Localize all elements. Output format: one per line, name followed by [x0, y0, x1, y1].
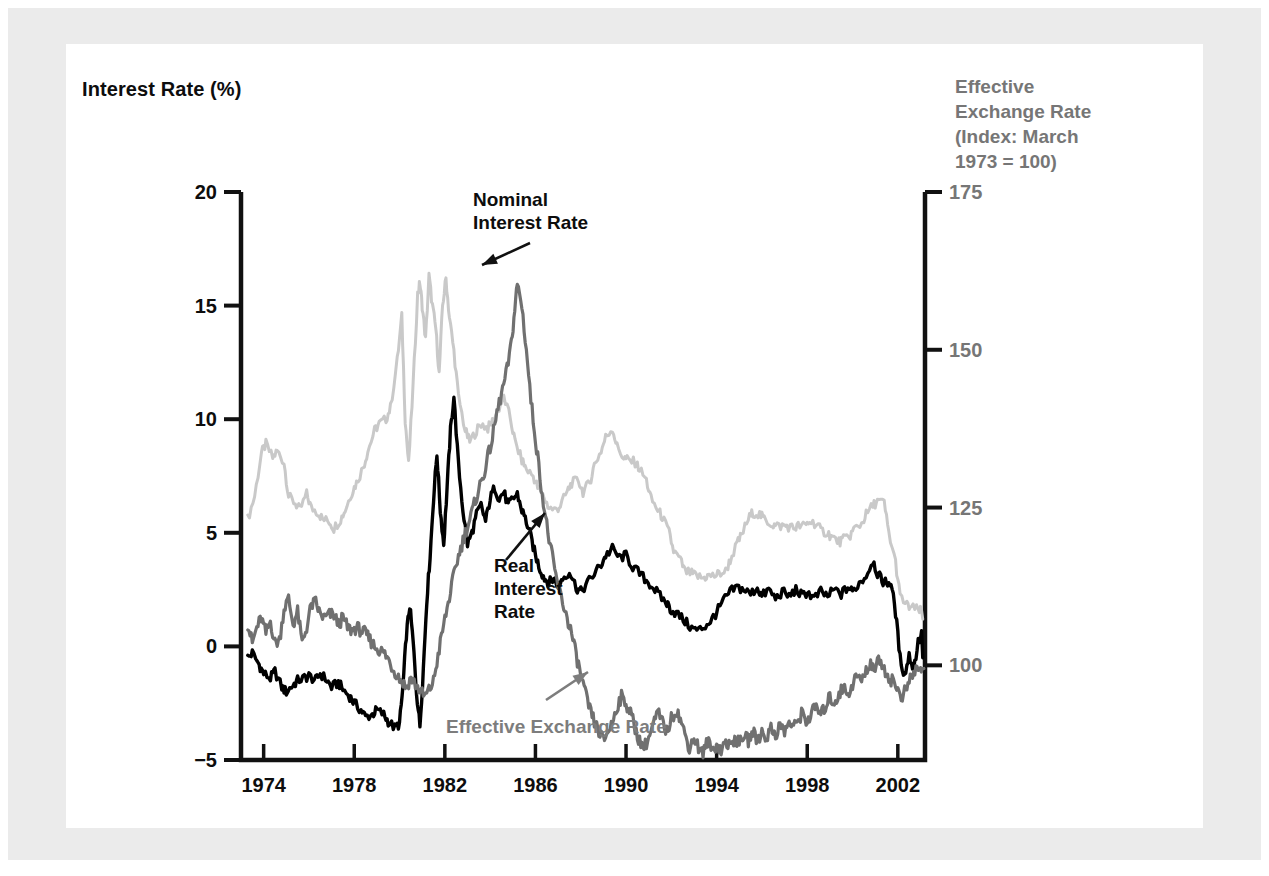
x-axis-tick-1998: 1998 [785, 774, 830, 797]
figure-root: Interest Rate (%) Effective Exchange Rat… [0, 0, 1269, 876]
annotation-nominal-interest-rate: Nominal Interest Rate [473, 188, 588, 234]
series-line-nominal-interest-rate [248, 273, 923, 619]
annotation-real-interest-rate: Real Interest Rate [494, 554, 563, 623]
right-axis-tick-175: 175 [949, 181, 982, 204]
left-axis-tick-0: 0 [206, 635, 217, 658]
right-axis-tick-100: 100 [949, 654, 982, 677]
x-axis-tick-1974: 1974 [241, 774, 286, 797]
x-axis-tick-1978: 1978 [332, 774, 377, 797]
series-line-real-interest-rate [248, 397, 923, 729]
right-axis-tick-150: 150 [949, 338, 982, 361]
arrow-effective-exchange-rate [546, 672, 588, 700]
left-axis-tick-20: 20 [195, 181, 217, 204]
left-axis-title: Interest Rate (%) [82, 78, 242, 101]
x-axis-tick-1994: 1994 [694, 774, 739, 797]
left-axis-tick--5: −5 [194, 749, 217, 772]
x-axis-tick-1982: 1982 [423, 774, 468, 797]
left-axis-tick-15: 15 [195, 294, 217, 317]
series-line-effective-exchange-rate [248, 284, 924, 758]
x-axis-tick-1986: 1986 [513, 774, 558, 797]
x-axis-tick-2002: 2002 [876, 774, 921, 797]
left-axis-tick-5: 5 [206, 521, 217, 544]
x-axis-tick-1990: 1990 [604, 774, 649, 797]
right-axis-title: Effective Exchange Rate (Index: March 19… [955, 74, 1091, 174]
right-axis-tick-125: 125 [949, 496, 982, 519]
series-lines [248, 273, 924, 758]
annotation-effective-exchange-rate: Effective Exchange Rate [446, 715, 667, 738]
arrow-nominal-interest-rate [482, 243, 530, 265]
left-axis-tick-10: 10 [195, 408, 217, 431]
